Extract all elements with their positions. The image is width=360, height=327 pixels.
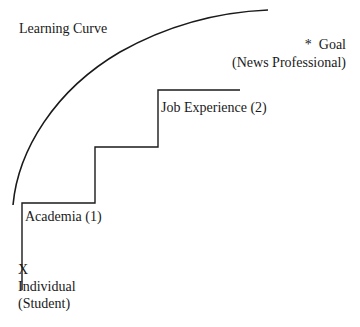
step-label-job-experience: Job Experience (2) xyxy=(161,99,267,116)
start-marker: X xyxy=(18,261,28,278)
goal-sublabel: (News Professional) xyxy=(232,54,346,71)
progress-staircase xyxy=(22,90,240,290)
step-label-academia: Academia (1) xyxy=(25,208,102,225)
goal-label: * Goal xyxy=(305,36,346,53)
goal-marker: * xyxy=(305,37,312,52)
learning-curve-diagram: Learning Curve * Goal (News Professional… xyxy=(0,0,360,327)
learning-curve-label: Learning Curve xyxy=(19,20,107,37)
goal-title: Goal xyxy=(319,37,346,52)
start-label: Individual xyxy=(18,278,76,295)
start-sublabel: (Student) xyxy=(18,295,70,312)
